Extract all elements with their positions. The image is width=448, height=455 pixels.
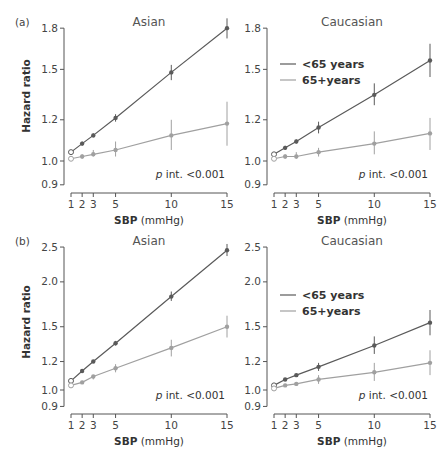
x-tick-label: 15 [423, 198, 436, 210]
x-tick-label: 15 [423, 419, 436, 431]
data-point [91, 374, 95, 378]
y-tick-label: 1.2 [41, 113, 58, 125]
data-point [294, 373, 298, 377]
x-tick-label: 2 [282, 198, 289, 210]
x-tick-label: 3 [293, 419, 300, 431]
data-point [169, 70, 173, 74]
panel-title: Caucasian [321, 234, 383, 248]
data-point [316, 365, 320, 369]
data-point [428, 361, 432, 365]
hazard-ratio-figure: (a)Asian0.91.01.21.51.8Hazard ratio12351… [0, 0, 448, 455]
x-tick-label: 2 [79, 419, 86, 431]
y-tick-label: 0.9 [244, 178, 261, 190]
x-axis-label: SBP (mmHg) [114, 214, 184, 226]
x-tick-label: 2 [282, 419, 289, 431]
y-tick-label: 1.2 [244, 355, 261, 367]
x-tick-label: 1 [271, 198, 278, 210]
data-point [113, 366, 117, 370]
data-point [372, 343, 376, 347]
p-interaction-annotation: p int. <0.001 [155, 168, 225, 180]
data-point [225, 248, 229, 252]
panel-title: Asian [133, 15, 166, 29]
y-tick-label: 1.5 [244, 63, 261, 75]
x-tick-label: 10 [368, 198, 381, 210]
p-interaction-annotation: p int. <0.001 [358, 168, 428, 180]
data-point [283, 383, 287, 387]
data-point [91, 152, 95, 156]
data-point [372, 93, 376, 97]
reference-point [69, 150, 74, 155]
data-point [225, 26, 229, 30]
y-tick-label: 1.8 [41, 22, 58, 34]
y-tick-label: 2.5 [244, 241, 261, 253]
y-tick-label: 1.2 [244, 113, 261, 125]
series-under-65 [69, 18, 230, 154]
reference-point [69, 156, 74, 161]
reference-point [272, 386, 277, 391]
data-point [428, 320, 432, 324]
data-point [91, 359, 95, 363]
y-tick-label: 0.9 [244, 400, 261, 412]
data-point [80, 141, 84, 145]
panel-tag: (b) [15, 235, 30, 247]
y-tick-label: 0.9 [41, 400, 58, 412]
y-tick-label: 1.8 [244, 22, 261, 34]
data-point [113, 116, 117, 120]
y-tick-label: 2.0 [41, 275, 58, 287]
data-point [294, 139, 298, 143]
series-65-plus [69, 316, 230, 388]
data-point [428, 131, 432, 135]
data-point [372, 370, 376, 374]
legend: <65 years65+years [280, 289, 365, 318]
y-tick-label: 1.2 [41, 355, 58, 367]
chart-panel-a-asian: (a)Asian0.91.01.21.51.8Hazard ratio12351… [15, 15, 234, 226]
p-interaction-annotation: p int. <0.001 [358, 389, 428, 401]
data-point [80, 154, 84, 158]
y-tick-label: 2.5 [41, 241, 58, 253]
data-point [169, 294, 173, 298]
data-point [225, 121, 229, 125]
chart-panel-b-caucasian: Caucasian0.91.01.21.52.02.512351015SBP (… [244, 234, 436, 447]
figure-canvas: (a)Asian0.91.01.21.51.8Hazard ratio12351… [0, 0, 448, 455]
y-axis-label: Hazard ratio [20, 285, 32, 359]
y-tick-label: 1.5 [41, 63, 58, 75]
data-point [316, 125, 320, 129]
x-tick-label: 1 [271, 419, 278, 431]
x-tick-label: 5 [112, 198, 119, 210]
x-axis-label: SBP (mmHg) [317, 214, 387, 226]
data-point [283, 146, 287, 150]
x-axis-label: SBP (mmHg) [114, 435, 184, 447]
x-tick-label: 3 [293, 198, 300, 210]
y-tick-label: 1.5 [41, 320, 58, 332]
x-tick-label: 3 [90, 198, 97, 210]
data-point [428, 58, 432, 62]
data-point [91, 133, 95, 137]
y-tick-label: 1.5 [244, 320, 261, 332]
y-tick-label: 0.9 [41, 178, 58, 190]
x-tick-label: 5 [315, 198, 322, 210]
y-tick-label: 1.0 [244, 384, 261, 396]
x-tick-label: 1 [68, 198, 75, 210]
data-point [169, 346, 173, 350]
reference-point [272, 156, 277, 161]
y-tick-label: 2.0 [244, 275, 261, 287]
chart-panel-a-caucasian: Caucasian0.91.01.21.51.812351015SBP (mmH… [244, 15, 436, 226]
x-tick-label: 10 [165, 198, 178, 210]
data-point [169, 133, 173, 137]
panel-tag: (a) [15, 16, 30, 28]
data-point [372, 141, 376, 145]
x-tick-label: 15 [220, 419, 233, 431]
data-point [316, 377, 320, 381]
legend-label: 65+years [302, 305, 361, 318]
panel-title: Caucasian [321, 15, 383, 29]
data-point [316, 150, 320, 154]
x-tick-label: 3 [90, 419, 97, 431]
series-under-65 [272, 310, 433, 388]
x-tick-label: 5 [112, 419, 119, 431]
series-65-plus [272, 350, 433, 391]
y-tick-label: 1.0 [244, 155, 261, 167]
y-tick-label: 1.0 [41, 384, 58, 396]
x-tick-label: 2 [79, 198, 86, 210]
data-point [283, 377, 287, 381]
panel-title: Asian [133, 234, 166, 248]
